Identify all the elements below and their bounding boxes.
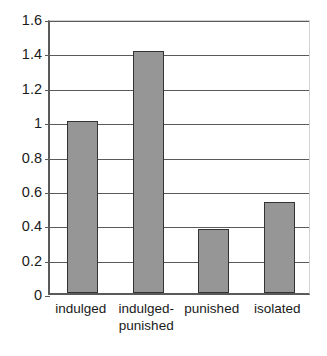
y-axis-tick-mark (45, 21, 50, 22)
y-axis-tick-mark (45, 262, 50, 263)
x-axis-category-label: punished (179, 301, 245, 318)
bar (133, 51, 164, 293)
y-axis-tick-label: 1 (0, 116, 42, 131)
y-axis-tick-label: 0.6 (0, 185, 42, 200)
y-axis-tick-label: 0.2 (0, 253, 42, 268)
x-axis-category-label: isolated (245, 301, 311, 318)
bar (264, 202, 295, 293)
y-axis-tick-mark (45, 159, 50, 160)
bar-chart: 00.20.40.60.811.21.41.6 indulgedindulged… (0, 0, 327, 356)
gridline (50, 90, 309, 91)
x-axis-category-label: indulged (48, 301, 114, 318)
bar (198, 229, 229, 293)
y-axis-tick-label: 0 (0, 288, 42, 303)
x-axis-category-labels: indulgedindulged- punishedpunishedisolat… (48, 301, 310, 351)
y-axis-tick-label: 1.2 (0, 82, 42, 97)
y-axis-tick-mark (45, 193, 50, 194)
y-axis-tick-label: 0.4 (0, 219, 42, 234)
y-axis-tick-label: 1.6 (0, 13, 42, 28)
x-axis-category-label: indulged- punished (114, 301, 180, 335)
plot-area (48, 20, 310, 295)
bar (67, 121, 98, 293)
y-axis-tick-label: 0.8 (0, 150, 42, 165)
y-axis-tick-mark (45, 227, 50, 228)
y-axis-tick-mark (45, 296, 50, 297)
gridline (50, 55, 309, 56)
y-axis-tick-label: 1.4 (0, 47, 42, 62)
y-axis-tick-mark (45, 90, 50, 91)
y-axis-tick-mark (45, 55, 50, 56)
y-axis-tick-mark (45, 124, 50, 125)
gridline (50, 21, 309, 22)
